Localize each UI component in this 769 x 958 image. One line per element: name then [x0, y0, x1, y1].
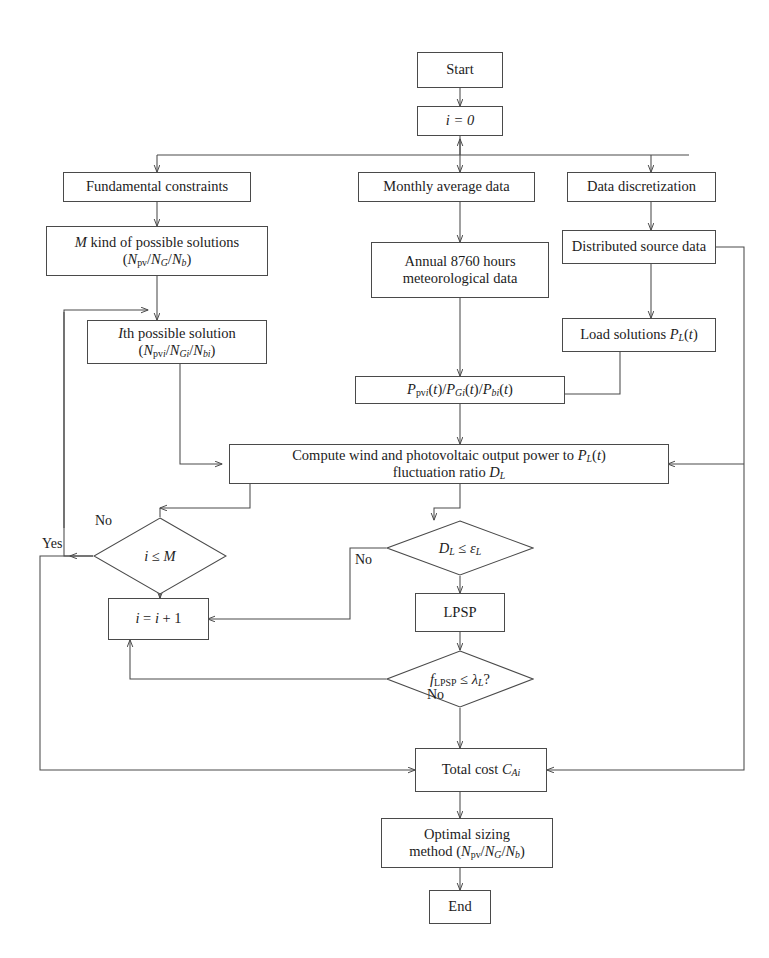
- node-annual-hours-line1: Annual 8760 hours: [404, 253, 515, 270]
- node-init[interactable]: i = 0: [417, 106, 503, 136]
- node-power-triplet[interactable]: Ppvi(t)/PGi(t)/Pbi(t): [355, 376, 565, 404]
- node-data-discretization-label: Data discretization: [587, 178, 696, 195]
- node-compute-power[interactable]: Compute wind and photovoltaic output pow…: [229, 444, 669, 484]
- node-fundamental-constraints[interactable]: Fundamental constraints: [63, 172, 251, 202]
- node-distributed-source-data[interactable]: Distributed source data: [562, 230, 716, 264]
- node-monthly-average-data-label: Monthly average data: [383, 178, 509, 195]
- node-check-lpsp[interactable]: fLPSP ≤ λL?: [386, 650, 534, 708]
- node-start[interactable]: Start: [417, 52, 503, 88]
- node-m-kind-solutions-line1: M kind of possible solutions: [75, 234, 239, 251]
- node-ith-possible-solution[interactable]: Ith possible solution (Npvi/NGi/Nbi): [87, 320, 267, 364]
- node-power-triplet-label: Ppvi(t)/PGi(t)/Pbi(t): [407, 381, 513, 398]
- node-ith-possible-solution-line2: (Npvi/NGi/Nbi): [139, 342, 216, 359]
- node-start-label: Start: [446, 61, 473, 78]
- node-fundamental-constraints-label: Fundamental constraints: [86, 178, 228, 195]
- edge-label-no-left: No: [95, 513, 112, 529]
- node-total-cost-label: Total cost CAi: [442, 761, 521, 778]
- node-m-kind-solutions[interactable]: M kind of possible solutions (Npv/NG/Nb): [46, 226, 268, 276]
- node-end[interactable]: End: [429, 890, 491, 924]
- node-annual-hours[interactable]: Annual 8760 hours meteorological data: [371, 242, 549, 298]
- node-optimal-sizing-line1: Optimal sizing: [424, 826, 510, 843]
- node-increment-label: i = i + 1: [135, 610, 181, 627]
- node-total-cost[interactable]: Total cost CAi: [415, 748, 547, 792]
- node-compute-power-line2: fluctuation ratio DL: [393, 464, 506, 481]
- node-lpsp[interactable]: LPSP: [415, 593, 505, 632]
- node-init-label: i = 0: [446, 112, 474, 129]
- node-distributed-source-data-label: Distributed source data: [572, 238, 707, 255]
- node-compute-power-line1: Compute wind and photovoltaic output pow…: [292, 447, 606, 464]
- node-m-kind-solutions-line2: (Npv/NG/Nb): [123, 251, 192, 268]
- node-check-i-le-m-label: i ≤ M: [144, 548, 175, 565]
- node-increment[interactable]: i = i + 1: [108, 598, 209, 640]
- node-data-discretization[interactable]: Data discretization: [567, 172, 716, 202]
- node-end-label: End: [448, 898, 471, 915]
- node-ith-possible-solution-line1: Ith possible solution: [118, 325, 236, 342]
- edge-label-yes-left: Yes: [42, 536, 62, 552]
- node-check-i-le-m[interactable]: i ≤ M: [93, 517, 227, 595]
- node-check-lpsp-label: fLPSP ≤ λL?: [430, 671, 490, 688]
- edge-label-no-dl: No: [355, 552, 372, 568]
- node-optimal-sizing[interactable]: Optimal sizing method (Npv/NG/Nb): [381, 818, 553, 868]
- node-annual-hours-line2: meteorological data: [403, 270, 518, 287]
- flowchart-canvas: Start i = 0 Fundamental constraints Mont…: [0, 0, 769, 958]
- node-load-solutions[interactable]: Load solutions PL(t): [562, 318, 716, 352]
- node-monthly-average-data[interactable]: Monthly average data: [358, 172, 535, 202]
- node-check-dl[interactable]: DL ≤ εL: [386, 520, 534, 576]
- node-check-dl-label: DL ≤ εL: [439, 540, 481, 557]
- node-lpsp-label: LPSP: [443, 604, 476, 621]
- node-load-solutions-label: Load solutions PL(t): [580, 326, 697, 343]
- node-optimal-sizing-line2: method (Npv/NG/Nb): [409, 843, 525, 860]
- edge-label-no-lpsp: No: [427, 687, 444, 703]
